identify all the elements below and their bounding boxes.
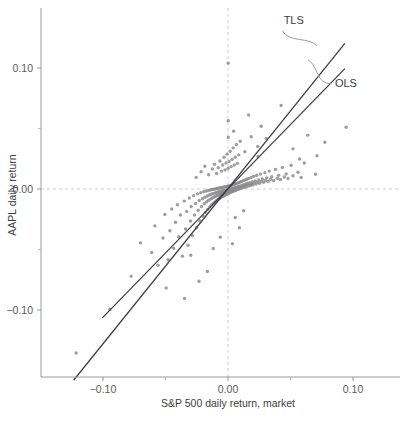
data-point <box>236 162 239 165</box>
data-point <box>283 175 286 178</box>
data-point <box>227 160 230 163</box>
data-point <box>291 147 294 150</box>
data-point <box>227 61 230 64</box>
ols-label: OLS <box>335 77 357 89</box>
data-point <box>161 236 164 239</box>
data-point <box>156 264 159 267</box>
data-point <box>255 174 258 177</box>
regression-lines-group <box>74 43 345 380</box>
data-point <box>259 125 262 128</box>
data-point <box>174 221 177 224</box>
data-point <box>153 224 156 227</box>
data-point <box>303 161 306 164</box>
data-point <box>268 169 271 172</box>
data-point <box>235 143 238 146</box>
data-point <box>74 351 77 354</box>
data-point <box>263 171 266 174</box>
data-point <box>189 219 192 222</box>
data-point <box>281 166 284 169</box>
data-point <box>179 213 182 216</box>
data-point <box>188 196 191 199</box>
data-point <box>199 191 202 194</box>
data-point <box>226 166 229 169</box>
data-point <box>256 145 259 148</box>
data-point <box>196 192 199 195</box>
data-point <box>129 274 132 277</box>
data-point <box>291 174 294 177</box>
data-point <box>194 176 197 179</box>
x-tick-label: 0.00 <box>218 383 239 395</box>
scatter-plot: −0.100.000.10 0.100.00−0.10 TLS OLS S&P … <box>0 0 417 427</box>
data-point <box>218 159 221 162</box>
data-point <box>206 270 209 273</box>
x-tick-label: −0.10 <box>90 383 117 395</box>
data-point <box>150 251 153 254</box>
data-point <box>299 176 302 179</box>
data-point <box>286 177 289 180</box>
figure-container: −0.100.000.10 0.100.00−0.10 TLS OLS S&P … <box>0 0 417 427</box>
data-point <box>185 210 188 213</box>
data-point <box>221 163 224 166</box>
data-point <box>239 140 242 143</box>
data-point <box>344 126 347 129</box>
tls-label: TLS <box>284 14 304 26</box>
data-point <box>252 175 255 178</box>
data-point <box>200 205 203 208</box>
data-point <box>231 242 234 245</box>
data-point <box>306 133 309 136</box>
x-axis-title: S&P 500 daily return, market <box>161 397 295 409</box>
data-point <box>265 176 268 179</box>
data-point <box>243 150 246 153</box>
data-point <box>193 213 196 216</box>
data-point <box>277 174 280 177</box>
data-point <box>249 135 252 138</box>
data-point <box>276 177 279 180</box>
data-point <box>211 167 214 170</box>
data-point <box>203 165 206 168</box>
data-point <box>284 172 287 175</box>
data-point <box>274 168 277 171</box>
data-point <box>237 153 240 156</box>
data-point <box>247 113 250 116</box>
data-point <box>232 146 235 149</box>
ols-leader-line <box>308 60 331 84</box>
y-tick-label: −0.10 <box>6 304 33 316</box>
data-point <box>227 136 230 139</box>
data-point <box>315 154 318 157</box>
data-point <box>220 169 223 172</box>
data-point <box>192 194 195 197</box>
data-point <box>172 247 175 250</box>
tls-leader-line <box>282 31 316 46</box>
data-point <box>227 119 230 122</box>
data-point <box>279 178 282 181</box>
data-point <box>261 177 264 180</box>
data-point <box>176 203 179 206</box>
data-point <box>198 199 201 202</box>
data-point <box>189 254 192 257</box>
axes-group: −0.100.000.10 0.100.00−0.10 <box>6 8 400 395</box>
data-point <box>168 229 171 232</box>
data-point <box>233 163 236 166</box>
data-point <box>242 209 245 212</box>
data-point <box>225 152 228 155</box>
data-point <box>215 172 218 175</box>
data-point <box>181 254 184 257</box>
x-axis-ticks: −0.100.000.10 <box>90 377 364 395</box>
data-point <box>234 216 237 219</box>
data-point <box>189 205 192 208</box>
data-point <box>217 166 220 169</box>
data-point <box>238 226 241 229</box>
data-point <box>183 297 186 300</box>
data-points-group <box>74 61 347 354</box>
data-point <box>184 227 187 230</box>
x-tick-label: 0.10 <box>343 383 364 395</box>
data-point <box>207 173 210 176</box>
data-point <box>232 129 235 132</box>
data-point <box>163 213 166 216</box>
tls-fit-line <box>74 43 345 380</box>
data-point <box>289 164 292 167</box>
data-point <box>183 199 186 202</box>
data-point <box>296 171 299 174</box>
data-point <box>222 156 225 159</box>
data-point <box>223 168 226 171</box>
